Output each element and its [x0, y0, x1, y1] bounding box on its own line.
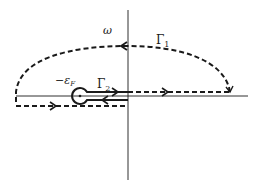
gamma2-label: Γ2	[97, 77, 110, 93]
pole-label: −εF	[55, 74, 76, 88]
gamma1-arc	[16, 46, 230, 104]
pole-point	[79, 95, 82, 98]
omega-label: ω	[103, 24, 112, 37]
gamma1-label: Γ1	[156, 33, 169, 49]
gamma1-top-arrow-icon	[121, 42, 128, 50]
contour-diagram: ω Γ1 Γ2 −εF	[0, 0, 260, 188]
